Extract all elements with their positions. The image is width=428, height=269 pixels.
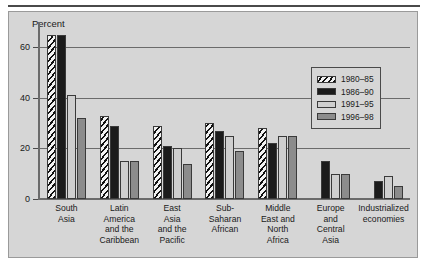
y-tick-label: 20 bbox=[0, 143, 30, 153]
bar bbox=[110, 126, 119, 199]
legend-item: 1980–85 bbox=[317, 74, 374, 85]
bar bbox=[173, 148, 182, 199]
x-axis-label-line: Industrialized bbox=[351, 203, 416, 214]
bar bbox=[153, 126, 162, 199]
bar bbox=[215, 131, 224, 199]
bar bbox=[278, 136, 287, 199]
bar bbox=[235, 151, 244, 199]
legend: 1980–851986–901991–951996–98 bbox=[311, 67, 381, 129]
y-tick-label: 0 bbox=[0, 194, 30, 204]
bar bbox=[100, 116, 109, 199]
legend-swatch-icon bbox=[317, 88, 336, 95]
legend-swatch-icon bbox=[317, 113, 336, 120]
bar bbox=[120, 161, 129, 199]
bar-group bbox=[251, 22, 304, 199]
bar-group bbox=[93, 22, 146, 199]
bar bbox=[268, 143, 277, 199]
bar bbox=[47, 35, 56, 199]
y-tick-label: 60 bbox=[0, 42, 30, 52]
bar bbox=[67, 95, 76, 199]
bar bbox=[374, 181, 383, 199]
x-axis-label: Industrializedeconomies bbox=[351, 203, 416, 224]
bar bbox=[341, 174, 350, 199]
legend-swatch-icon bbox=[317, 101, 336, 108]
bar bbox=[183, 164, 192, 199]
bar bbox=[384, 176, 393, 199]
y-tick-label: 40 bbox=[0, 93, 30, 103]
legend-item: 1986–90 bbox=[317, 86, 374, 97]
bar bbox=[258, 128, 267, 199]
bar bbox=[130, 161, 139, 199]
bar bbox=[77, 118, 86, 199]
bar bbox=[57, 35, 66, 199]
x-axis-label-line: Asia bbox=[298, 235, 363, 246]
x-axis-label-line: Central bbox=[298, 224, 363, 235]
bar bbox=[163, 146, 172, 199]
bar bbox=[288, 136, 297, 199]
bar bbox=[321, 161, 330, 199]
bar-group bbox=[199, 22, 252, 199]
bar bbox=[394, 186, 403, 199]
bar-group bbox=[146, 22, 199, 199]
legend-label: 1991–95 bbox=[341, 99, 374, 109]
x-axis-label-line: Pacific bbox=[140, 235, 205, 246]
legend-item: 1996–98 bbox=[317, 111, 374, 122]
legend-label: 1986–90 bbox=[341, 87, 374, 97]
legend-swatch-icon bbox=[317, 76, 336, 83]
x-axis-labels: SouthAsiaLatinAmericaand theCaribbeanEas… bbox=[40, 203, 410, 259]
bar bbox=[331, 174, 340, 199]
bar bbox=[225, 136, 234, 199]
bar bbox=[205, 123, 214, 199]
x-axis-label-line: economies bbox=[351, 214, 416, 225]
figure: Percent 0204060 SouthAsiaLatinAmericaand… bbox=[0, 0, 428, 269]
legend-label: 1980–85 bbox=[341, 74, 374, 84]
legend-item: 1991–95 bbox=[317, 99, 374, 110]
header-rule bbox=[8, 5, 420, 7]
bar-group bbox=[40, 22, 93, 199]
legend-label: 1996–98 bbox=[341, 112, 374, 122]
